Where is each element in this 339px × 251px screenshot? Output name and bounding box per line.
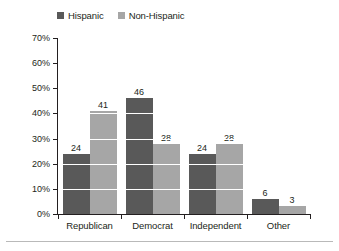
bar-non-hispanic: 3 xyxy=(279,206,306,214)
bar-group: 2428 xyxy=(184,38,247,214)
y-axis-tick xyxy=(53,164,57,165)
y-axis-label: 70% xyxy=(32,34,50,43)
y-axis-label: 20% xyxy=(32,159,50,168)
legend-label-non-hispanic: Non-Hispanic xyxy=(129,11,185,21)
category-label: Democrat xyxy=(121,219,184,232)
plot-area: 70%60%50%40%30%20%10%0% 24414628242863 R… xyxy=(57,38,310,214)
y-axis-tick xyxy=(53,38,57,39)
bar-value-label: 41 xyxy=(98,100,108,110)
y-axis-tick xyxy=(53,113,57,114)
y-axis-label: 30% xyxy=(32,134,50,143)
bar-non-hispanic: 28 xyxy=(153,144,180,214)
bar-value-label: 3 xyxy=(289,195,294,205)
bar-value-label: 46 xyxy=(134,87,144,97)
y-axis-label: 0% xyxy=(37,210,50,219)
bar-hispanic: 6 xyxy=(252,199,279,214)
bar-group: 63 xyxy=(247,38,310,214)
y-axis-label: 40% xyxy=(32,109,50,118)
y-axis-tick xyxy=(53,88,57,89)
legend-item-hispanic: Hispanic xyxy=(57,11,104,21)
y-axis-label: 60% xyxy=(32,59,50,68)
y-axis-label: 10% xyxy=(32,184,50,193)
category-label: Other xyxy=(247,219,310,232)
bar-non-hispanic: 41 xyxy=(90,111,117,214)
bar-group: 4628 xyxy=(121,38,184,214)
bar-hispanic: 24 xyxy=(63,154,90,214)
bar-value-label: 28 xyxy=(224,133,234,143)
category-separator xyxy=(184,214,185,219)
legend-label-hispanic: Hispanic xyxy=(68,11,104,21)
bottom-divider xyxy=(6,241,333,242)
y-axis-tick xyxy=(53,189,57,190)
bar-value-label: 28 xyxy=(161,133,171,143)
bar-group: 2441 xyxy=(58,38,121,214)
y-axis-label: 50% xyxy=(32,84,50,93)
y-axis-tick xyxy=(53,63,57,64)
bar-non-hispanic: 28 xyxy=(216,144,243,214)
category-separator xyxy=(58,214,59,219)
y-axis-tick xyxy=(53,139,57,140)
legend-swatch-hispanic xyxy=(57,12,64,19)
category-separator xyxy=(310,214,311,219)
legend-item-non-hispanic: Non-Hispanic xyxy=(118,11,185,21)
bar-hispanic: 24 xyxy=(189,154,216,214)
bar-value-label: 24 xyxy=(71,143,81,153)
category-label: Independent xyxy=(184,219,247,232)
bar-hispanic: 46 xyxy=(126,98,153,214)
category-labels: RepublicanDemocratIndependentOther xyxy=(58,219,310,232)
category-separator xyxy=(121,214,122,219)
y-axis-tick xyxy=(53,214,57,215)
bar-groups: 24414628242863 xyxy=(58,38,310,214)
bar-chart: Hispanic Non-Hispanic 70%60%50%40%30%20%… xyxy=(0,0,339,251)
chart-legend: Hispanic Non-Hispanic xyxy=(57,9,184,22)
bar-value-label: 24 xyxy=(197,143,207,153)
category-label: Republican xyxy=(58,219,121,232)
legend-swatch-non-hispanic xyxy=(118,12,125,19)
bar-value-label: 6 xyxy=(262,188,267,198)
category-separator xyxy=(247,214,248,219)
